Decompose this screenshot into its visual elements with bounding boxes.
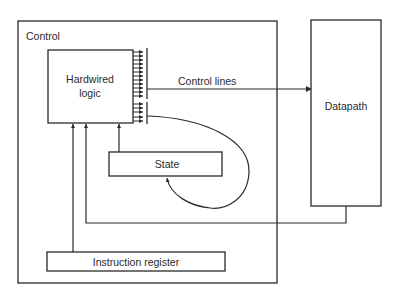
state-label: State [155, 158, 180, 170]
output-signal-arrows [133, 52, 143, 121]
control-label: Control [26, 30, 60, 42]
control-lines-label: Control lines [178, 75, 236, 87]
datapath-box: Datapath [311, 20, 381, 206]
datapath-label: Datapath [325, 100, 368, 112]
instruction-register-box: Instruction register [47, 252, 225, 271]
control-lines-arrow: Control lines [147, 75, 311, 89]
state-box: State [109, 152, 222, 176]
control-unit-diagram: Control Hardwired logic Control lines [0, 0, 404, 299]
hardwired-label-line2: logic [79, 87, 101, 99]
hardwired-label-line1: Hardwired [66, 73, 114, 85]
hardwired-logic-box: Hardwired logic [48, 50, 133, 123]
instruction-register-label: Instruction register [93, 256, 180, 268]
